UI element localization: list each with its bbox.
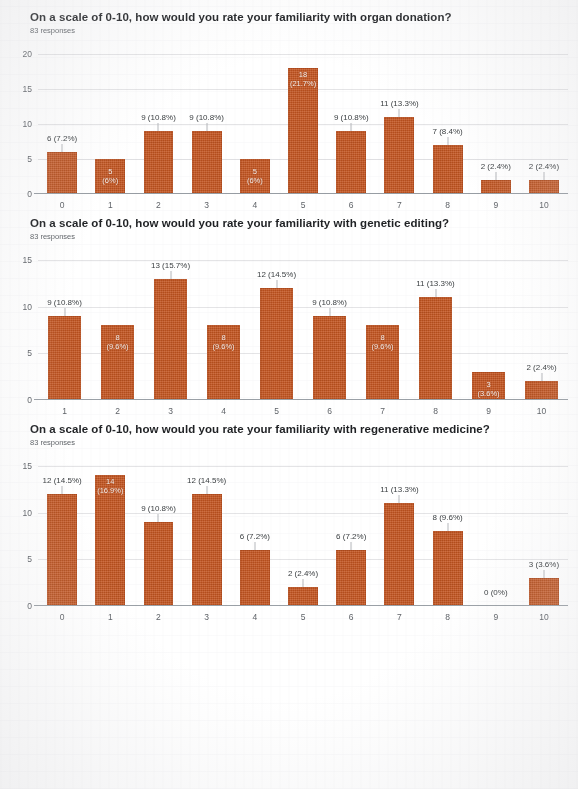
bar-column[interactable]: 13 (15.7%)3 [144,260,197,400]
bar-column[interactable]: 0 (0%)9 [472,466,520,606]
bar-value-label: 8(9.6%) [212,334,234,351]
bar-column[interactable]: 8(9.6%)4 [197,260,250,400]
bar[interactable] [47,494,77,606]
response-count: 83 responses [30,438,578,448]
bar-column[interactable]: 9 (10.8%)2 [134,466,182,606]
bar[interactable] [260,288,293,400]
bar-column[interactable]: 9 (10.8%)2 [134,54,182,194]
label-leader-line [206,486,207,494]
bar-column[interactable]: 7 (8.4%)8 [424,54,472,194]
bar[interactable] [192,494,222,606]
label-leader-line [170,271,171,279]
bar-column[interactable]: 14(16.9%)1 [86,466,134,606]
bar-column[interactable]: 2 (2.4%)10 [520,54,568,194]
bar[interactable] [433,531,463,606]
gridline [38,194,568,195]
x-axis-tick-label: 5 [301,200,306,210]
bar-value-label: 9 (10.8%) [141,504,176,513]
x-axis-tick-label: 8 [445,200,450,210]
bar[interactable] [433,145,463,194]
label-leader-line [447,137,448,145]
bar-value-label: 8(9.6%) [106,334,128,351]
bar-column[interactable]: 12 (14.5%)5 [250,260,303,400]
bar[interactable] [144,522,174,606]
bar-column[interactable]: 2 (2.4%)10 [515,260,568,400]
x-axis-tick-label: 4 [252,612,257,622]
label-leader-line [435,289,436,297]
bar-column[interactable]: 8 (9.6%)8 [424,466,472,606]
bar[interactable] [240,550,270,606]
x-axis-tick-label: 9 [493,200,498,210]
bar-value-label: 14(16.9%) [97,478,123,495]
bar[interactable] [336,550,366,606]
x-axis-tick-label: 2 [156,200,161,210]
bar-column[interactable]: 3 (3.6%)10 [520,466,568,606]
x-axis-line [34,193,568,195]
bar-column[interactable]: 8(9.6%)7 [356,260,409,400]
bar-column[interactable]: 8(9.6%)2 [91,260,144,400]
bar[interactable] [313,316,346,400]
bar-column[interactable]: 2 (2.4%)5 [279,466,327,606]
bar-value-label: 3 (3.6%) [529,560,559,569]
bar[interactable] [288,587,318,606]
x-axis-tick-label: 6 [327,406,332,416]
bar[interactable] [336,131,366,194]
bar[interactable] [47,152,77,194]
x-axis-tick-label: 4 [221,406,226,416]
bar-value-label: 9 (10.8%) [312,298,347,307]
label-leader-line [254,542,255,550]
bar-column[interactable]: 2 (2.4%)9 [472,54,520,194]
bar-column[interactable]: 18(21.7%)5 [279,54,327,194]
bar[interactable] [384,503,414,606]
bar-column[interactable]: 9 (10.8%)1 [38,260,91,400]
x-axis-tick-label: 7 [397,200,402,210]
bar-column[interactable]: 9 (10.8%)6 [327,54,375,194]
x-axis-tick-label: 3 [204,200,209,210]
bar-column[interactable]: 9 (10.8%)3 [183,54,231,194]
bar-column[interactable]: 5(6%)1 [86,54,134,194]
bar-value-label: 6 (7.2%) [47,134,77,143]
bar[interactable] [192,131,222,194]
bar[interactable] [48,316,81,400]
bar[interactable] [384,117,414,194]
bar-series: 12 (14.5%)014(16.9%)19 (10.8%)212 (14.5%… [38,466,568,606]
bar-value-label: 8(9.6%) [371,334,393,351]
bar[interactable] [525,381,558,400]
bar-value-label: 0 (0%) [484,588,508,597]
bar-column[interactable]: 11 (13.3%)7 [375,54,423,194]
label-leader-line [399,495,400,503]
bar[interactable] [419,297,452,400]
bar-column[interactable]: 5(6%)4 [231,54,279,194]
bar-column[interactable]: 12 (14.5%)0 [38,466,86,606]
label-leader-line [158,514,159,522]
bar-value-label: 5(6%) [247,168,263,185]
y-axis-tick-label: 10 [23,119,32,129]
response-count: 83 responses [30,232,578,242]
bar[interactable] [529,578,559,606]
y-axis-tick-label: 10 [23,508,32,518]
bar-value-label: 12 (14.5%) [43,476,82,485]
bar-column[interactable]: 6 (7.2%)0 [38,54,86,194]
x-axis-tick-label: 10 [539,200,548,210]
x-axis-tick-label: 1 [108,612,113,622]
bar-series: 9 (10.8%)18(9.6%)213 (15.7%)38(9.6%)412 … [38,260,568,400]
bar-value-label: 5(6%) [102,168,118,185]
bar-value-label: 7 (8.4%) [432,127,462,136]
bar-column[interactable]: 6 (7.2%)6 [327,466,375,606]
bar-column[interactable]: 9 (10.8%)6 [303,260,356,400]
bar-column[interactable]: 11 (13.3%)7 [375,466,423,606]
y-axis-tick-label: 0 [27,601,32,611]
bar-column[interactable]: 12 (14.5%)3 [183,466,231,606]
x-axis-tick-label: 5 [301,612,306,622]
bar-column[interactable]: 3(3.6%)9 [462,260,515,400]
bar[interactable] [144,131,174,194]
bar-chart-organ-donation: 05101520 6 (7.2%)05(6%)19 (10.8%)29 (10.… [0,46,578,216]
label-leader-line [62,144,63,152]
bar-column[interactable]: 11 (13.3%)8 [409,260,462,400]
label-leader-line [351,123,352,131]
bar-value-label: 9 (10.8%) [334,113,369,122]
x-axis-tick-label: 8 [433,406,438,416]
x-axis-tick-label: 7 [397,612,402,622]
bar[interactable] [154,279,187,400]
bar-column[interactable]: 6 (7.2%)4 [231,466,279,606]
